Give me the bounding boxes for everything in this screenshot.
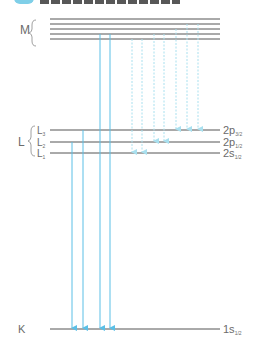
shell-k: K 1s1/2 [18,323,242,336]
shell-m: M [20,19,220,46]
shell-m-label: M [20,23,30,37]
shell-l-label: L [18,135,25,149]
l1-label: L1 [37,148,46,160]
shell-k-label: K [18,323,26,335]
brace-l [28,126,35,156]
orbital-1s12: 1s1/2 [223,323,242,336]
k-transitions [72,34,110,328]
l3-label: L3 [37,125,46,137]
energy-level-diagram: M L L3 L2 L1 2p3/2 2p1/2 2s1/2 K 1s1/2 [0,0,263,346]
l-transitions [132,24,198,152]
shell-l: L L3 L2 L1 2p3/2 2p1/2 2s1/2 [18,124,242,160]
brace-m [29,20,36,46]
